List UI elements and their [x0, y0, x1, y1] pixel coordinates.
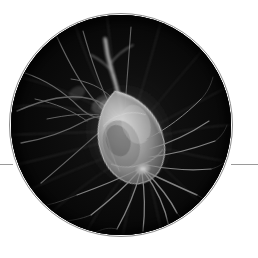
right-divider-rule — [231, 164, 258, 165]
neuron-micrograph-disc — [11, 15, 231, 235]
image-canvas — [0, 0, 258, 258]
left-divider-rule — [0, 164, 13, 165]
neuron-illustration — [11, 15, 231, 235]
